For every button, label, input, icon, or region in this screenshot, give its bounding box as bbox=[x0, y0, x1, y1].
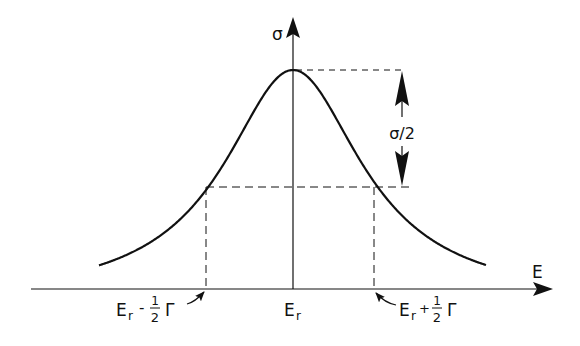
left-half-width-label: E r - 1 2 Γ bbox=[116, 294, 175, 325]
half-height-label: σ/2 bbox=[389, 124, 415, 143]
half-height-arrowhead-down bbox=[395, 151, 409, 186]
left-pointer-arrow bbox=[187, 292, 204, 304]
svg-text:r: r bbox=[128, 309, 133, 323]
svg-text:-: - bbox=[139, 299, 144, 317]
peak-energy-label: E r bbox=[284, 300, 301, 323]
svg-text:r: r bbox=[296, 309, 301, 323]
x-axis-label: E bbox=[532, 262, 543, 282]
svg-text:r: r bbox=[411, 309, 416, 323]
svg-text:Γ: Γ bbox=[447, 300, 457, 320]
half-height-arrowhead-up bbox=[395, 71, 409, 106]
svg-text:1: 1 bbox=[433, 294, 441, 308]
svg-text:E: E bbox=[116, 300, 127, 320]
resonance-diagram: E σ σ/2 E r E r - 1 2 Γ E r + 1 2 Γ bbox=[0, 0, 580, 346]
svg-text:E: E bbox=[284, 300, 295, 320]
right-pointer-arrow bbox=[376, 293, 396, 305]
svg-text:E: E bbox=[399, 300, 410, 320]
y-axis-label: σ bbox=[272, 24, 283, 44]
svg-text:1: 1 bbox=[151, 294, 159, 308]
svg-text:Γ: Γ bbox=[165, 300, 175, 320]
svg-text:2: 2 bbox=[151, 310, 159, 325]
svg-text:+: + bbox=[419, 301, 430, 316]
right-half-width-label: E r + 1 2 Γ bbox=[399, 294, 457, 325]
svg-text:2: 2 bbox=[433, 310, 441, 325]
